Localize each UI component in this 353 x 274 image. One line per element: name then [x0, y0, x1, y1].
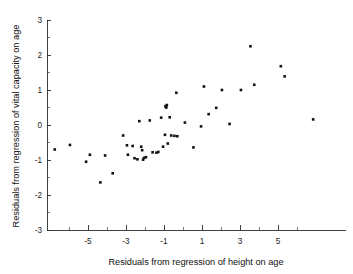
data-point	[203, 85, 206, 88]
data-point	[283, 75, 286, 78]
x-axis-tick-label: 5	[276, 237, 281, 246]
data-point	[192, 146, 195, 149]
data-point	[228, 123, 231, 126]
scatter-plot-canvas: -5-3-1135 3210-1-2-3 Residuals from regr…	[0, 0, 353, 274]
scatter-plot-figure: -5-3-1135 3210-1-2-3 Residuals from regr…	[0, 0, 353, 274]
y-axis-tick-labels: 3210-1-2-3	[35, 16, 43, 235]
data-point	[253, 83, 256, 86]
data-point	[176, 135, 179, 138]
data-point	[126, 144, 129, 147]
data-point	[140, 145, 143, 148]
x-axis-tick-label: -5	[84, 237, 92, 246]
y-axis-tick-label: -1	[35, 156, 43, 165]
data-point	[173, 135, 176, 138]
data-point	[122, 134, 125, 137]
data-point	[249, 45, 252, 48]
data-point	[131, 145, 134, 148]
y-axis-ticks	[47, 20, 51, 230]
data-point	[160, 116, 163, 119]
data-point	[215, 107, 218, 110]
x-axis-ticks	[69, 225, 297, 230]
data-point	[111, 172, 114, 175]
data-point	[99, 181, 102, 184]
data-point	[127, 153, 130, 156]
x-axis-tick-label: 1	[200, 237, 205, 246]
y-axis-tick-label: -3	[35, 226, 43, 235]
data-point	[89, 153, 92, 156]
data-point	[240, 89, 243, 92]
data-point	[148, 119, 151, 122]
data-point	[53, 148, 56, 151]
data-point	[138, 120, 141, 123]
y-axis-tick-label: -2	[35, 191, 43, 200]
x-axis-tick-label: -1	[160, 237, 168, 246]
data-point	[200, 125, 203, 128]
data-point	[221, 89, 224, 92]
y-axis-tick-label: 1	[37, 86, 42, 95]
data-point	[133, 157, 136, 160]
data-point	[168, 116, 171, 119]
x-axis-tick-label: -3	[122, 237, 130, 246]
data-point	[85, 160, 88, 163]
data-point	[157, 151, 160, 154]
data-point	[164, 105, 167, 108]
data-point	[151, 151, 154, 154]
x-axis-tick-label: 3	[238, 237, 243, 246]
data-point	[141, 149, 144, 152]
x-axis-label: Residuals from regression of height on a…	[108, 257, 283, 267]
data-point	[136, 158, 139, 161]
data-point	[312, 118, 315, 121]
data-point	[175, 92, 178, 95]
y-axis-label: Residuals from regression of vital capac…	[11, 25, 21, 228]
data-point	[184, 121, 187, 124]
y-axis-tick-label: 0	[37, 121, 42, 130]
data-point	[143, 157, 146, 160]
data-point	[162, 145, 165, 148]
data-point	[207, 113, 210, 116]
y-axis-tick-label: 2	[37, 51, 42, 60]
data-points-group	[53, 45, 314, 184]
data-point	[280, 65, 283, 68]
x-axis-tick-labels: -5-3-1135	[84, 237, 280, 246]
data-point	[170, 134, 173, 137]
y-axis-tick-label: 3	[37, 16, 42, 25]
data-point	[69, 144, 72, 147]
data-point	[104, 154, 107, 157]
data-point	[164, 134, 167, 137]
axes-group	[47, 20, 346, 230]
data-point	[167, 142, 170, 145]
